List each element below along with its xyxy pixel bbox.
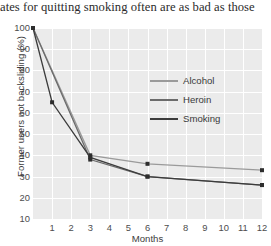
legend-item-heroin: Heroin (150, 90, 250, 109)
data-point-marker (88, 155, 92, 159)
legend-label: Smoking (183, 113, 220, 124)
y-axis-title: Former users not backsliding (%) (15, 17, 26, 197)
legend-line-icon (150, 109, 178, 128)
data-point-marker (260, 168, 264, 172)
x-tick-label: 12 (250, 222, 271, 233)
legend-item-alcohol: Alcohol (150, 71, 250, 90)
legend-line-icon (150, 90, 178, 109)
series-lines (0, 17, 271, 246)
data-point-marker (146, 162, 150, 166)
chart-screenshot: ates for quitting smoking often are as b… (0, 0, 271, 246)
data-point-marker (260, 183, 264, 187)
line-chart-figure: 102030405060708090100 123456789101112 Fo… (0, 17, 271, 246)
data-point-marker (31, 26, 35, 30)
legend-line-icon (150, 71, 178, 90)
page-caption: ates for quitting smoking often are as b… (0, 0, 271, 16)
legend-label: Heroin (183, 94, 211, 105)
legend-label: Alcohol (183, 75, 214, 86)
chart-legend: AlcoholHeroinSmoking (150, 71, 250, 128)
data-point-marker (50, 100, 54, 104)
data-point-marker (146, 175, 150, 179)
x-axis-title: Months (33, 233, 262, 244)
legend-item-smoking: Smoking (150, 109, 250, 128)
